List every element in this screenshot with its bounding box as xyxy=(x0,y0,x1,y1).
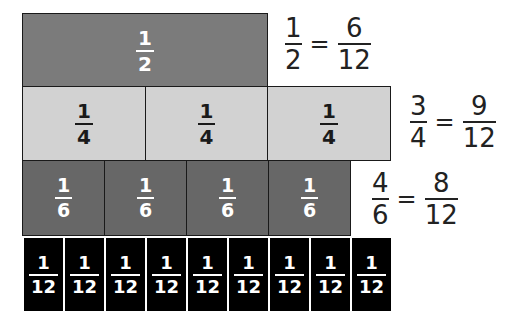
denominator: 12 xyxy=(154,276,179,296)
denominator: 6 xyxy=(139,199,152,220)
denominator: 12 xyxy=(359,276,384,296)
numerator: 1 xyxy=(37,254,50,274)
fraction-cell-twelfth: 112 xyxy=(270,238,309,311)
denominator: 12 xyxy=(463,125,496,151)
fraction-cell-quarter: 14 xyxy=(22,86,146,161)
numerator: 1 xyxy=(324,254,337,274)
equation-four-sixths: 46 = 812 xyxy=(372,170,458,228)
numerator: 9 xyxy=(471,93,488,119)
numerator: 1 xyxy=(160,254,173,274)
numerator: 1 xyxy=(77,101,91,123)
halves-strip: 1 2 xyxy=(22,13,268,88)
numerator: 1 xyxy=(78,254,91,274)
fraction-left: 34 xyxy=(410,93,427,151)
numerator: 1 xyxy=(322,101,336,123)
equation-three-quarters: 34 = 912 xyxy=(410,93,496,151)
denominator: 12 xyxy=(236,276,261,296)
fraction-cell-sixth: 16 xyxy=(269,160,351,236)
numerator: 3 xyxy=(410,93,427,119)
numerator: 1 xyxy=(119,254,132,274)
numerator: 6 xyxy=(346,15,363,41)
numerator: 1 xyxy=(221,176,234,197)
fraction-cell-twelfth: 112 xyxy=(229,238,268,311)
fraction-cell-twelfth: 112 xyxy=(106,238,145,311)
numerator: 1 xyxy=(303,176,316,197)
numerator: 8 xyxy=(433,170,450,196)
numerator: 1 xyxy=(201,254,214,274)
fraction-left: 12 xyxy=(285,15,302,73)
fraction-cell-half: 1 2 xyxy=(22,13,268,88)
numerator: 1 xyxy=(285,15,302,41)
fraction-cell-twelfth: 112 xyxy=(65,238,104,311)
denominator: 12 xyxy=(72,276,97,296)
equation-half: 12 = 612 xyxy=(285,15,371,73)
denominator: 2 xyxy=(285,47,302,73)
equals-sign: = xyxy=(310,30,330,58)
denominator: 6 xyxy=(303,199,316,220)
fraction-cell-twelfth: 112 xyxy=(24,238,63,311)
numerator: 1 xyxy=(283,254,296,274)
fraction-cell-twelfth: 112 xyxy=(188,238,227,311)
fraction-cell-twelfth: 112 xyxy=(311,238,350,311)
denominator: 12 xyxy=(318,276,343,296)
fraction-cell-quarter: 14 xyxy=(268,86,391,161)
denominator: 2 xyxy=(138,52,152,74)
denominator: 12 xyxy=(277,276,302,296)
numerator: 1 xyxy=(138,28,152,50)
fraction-cell-twelfth: 112 xyxy=(352,238,391,311)
numerator: 1 xyxy=(365,254,378,274)
fraction-right: 812 xyxy=(425,170,458,228)
fraction-label: 1 2 xyxy=(138,28,152,74)
numerator: 1 xyxy=(242,254,255,274)
equals-sign: = xyxy=(435,108,455,136)
denominator: 6 xyxy=(57,199,70,220)
denominator: 4 xyxy=(322,125,336,147)
denominator: 4 xyxy=(200,125,214,147)
denominator: 4 xyxy=(410,125,427,151)
denominator: 12 xyxy=(195,276,220,296)
numerator: 4 xyxy=(372,170,389,196)
twelfths-strip: 112 112 112 112 112 112 112 112 112 xyxy=(24,238,394,311)
fraction-cell-sixth: 16 xyxy=(22,160,105,236)
denominator: 12 xyxy=(113,276,138,296)
quarters-strip: 14 14 14 xyxy=(22,86,391,161)
equals-sign: = xyxy=(397,185,417,213)
numerator: 1 xyxy=(57,176,70,197)
denominator: 12 xyxy=(338,47,371,73)
denominator: 6 xyxy=(221,199,234,220)
numerator: 1 xyxy=(139,176,152,197)
denominator: 12 xyxy=(31,276,56,296)
denominator: 12 xyxy=(425,202,458,228)
fraction-right: 912 xyxy=(463,93,496,151)
fraction-left: 46 xyxy=(372,170,389,228)
denominator: 4 xyxy=(77,125,91,147)
fraction-cell-quarter: 14 xyxy=(146,86,268,161)
numerator: 1 xyxy=(200,101,214,123)
sixths-strip: 16 16 16 16 xyxy=(22,160,351,236)
denominator: 6 xyxy=(372,202,389,228)
fraction-cell-twelfth: 112 xyxy=(147,238,186,311)
fraction-cell-sixth: 16 xyxy=(105,160,187,236)
fraction-cell-sixth: 16 xyxy=(187,160,269,236)
fraction-right: 612 xyxy=(338,15,371,73)
